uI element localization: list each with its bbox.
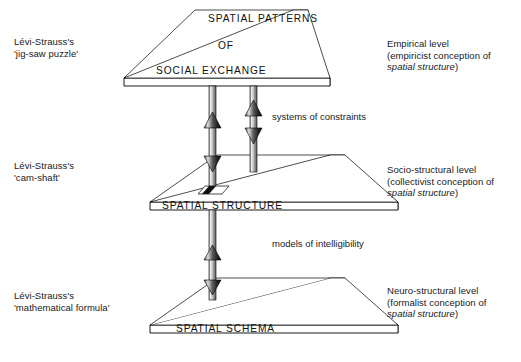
- shaft-upper-right: [245, 86, 262, 172]
- connector-label-systems-of-constraints: systems of constraints: [272, 111, 366, 123]
- arrowhead-down-mid: [204, 156, 221, 172]
- diagram-canvas: SPATIAL SCHEMA SPATIAL STRUCTURE SPATIAL…: [0, 0, 521, 362]
- plane-empirical: SPATIAL PATTERNS OF SOCIAL EXCHANGE: [124, 10, 330, 86]
- right-label-term: spatial structure: [387, 308, 455, 319]
- plane-socio-structural: SPATIAL STRUCTURE: [150, 155, 398, 211]
- right-label-level: Socio-structural level: [387, 164, 494, 176]
- right-label-paren: ): [455, 61, 458, 72]
- left-label-neuro-structural: Lévi-Strauss's 'mathematical formula': [14, 290, 110, 313]
- left-label-empirical: Lévi-Strauss's 'jig-saw puzzle': [14, 36, 78, 59]
- right-label-conception: (collectivist conception of: [387, 176, 494, 188]
- arrowhead-up-upper: [204, 112, 221, 128]
- right-label-conception: (empiricist conception of: [387, 50, 491, 62]
- right-label-term: spatial structure: [387, 187, 455, 198]
- left-label-line-2: 'mathematical formula': [14, 302, 110, 314]
- right-label-socio-structural: Socio-structural level (collectivist con…: [387, 164, 494, 199]
- right-label-paren: ): [455, 308, 458, 319]
- arrowhead-up-mid: [204, 245, 221, 260]
- arrowhead-up-right-upper: [245, 100, 262, 116]
- right-label-empirical: Empirical level (empiricist conception o…: [387, 38, 491, 73]
- right-label-paren: ): [455, 187, 458, 198]
- right-label-term-line: spatial structure): [387, 61, 491, 73]
- left-label-line-1: Lévi-Strauss's: [14, 160, 74, 172]
- shaft-cylinder: [209, 86, 216, 188]
- left-label-line-1: Lévi-Strauss's: [14, 290, 110, 302]
- left-label-line-2: 'cam-shaft': [14, 172, 74, 184]
- right-label-term-line: spatial structure): [387, 187, 494, 199]
- plane-label-spatial-patterns: SPATIAL PATTERNS: [208, 13, 318, 24]
- right-label-conception: (formalist conception of: [387, 297, 486, 309]
- right-label-level: Neuro-structural level: [387, 285, 486, 297]
- plane-front-face: [124, 78, 330, 86]
- plane-neuro-structural: SPATIAL SCHEMA: [150, 278, 398, 334]
- right-label-level: Empirical level: [387, 38, 491, 50]
- connector-label-models-of-intelligibility: models of intelligibility: [272, 238, 364, 250]
- shaft-upper-left: [198, 86, 229, 194]
- left-label-line-2: 'jig-saw puzzle': [14, 48, 78, 60]
- left-label-line-1: Lévi-Strauss's: [14, 36, 78, 48]
- plane-label-social-exchange: SOCIAL EXCHANGE: [156, 65, 267, 76]
- plane-label-of: OF: [218, 40, 234, 51]
- arrowhead-down-right-lower: [245, 128, 262, 144]
- plane-label-spatial-schema: SPATIAL SCHEMA: [176, 323, 275, 334]
- plane-top-face: [150, 155, 398, 202]
- plane-label-spatial-structure: SPATIAL STRUCTURE: [162, 200, 283, 211]
- right-label-term: spatial structure: [387, 61, 455, 72]
- right-label-term-line: spatial structure): [387, 308, 486, 320]
- left-label-socio-structural: Lévi-Strauss's 'cam-shaft': [14, 160, 74, 183]
- right-label-neuro-structural: Neuro-structural level (formalist concep…: [387, 285, 486, 320]
